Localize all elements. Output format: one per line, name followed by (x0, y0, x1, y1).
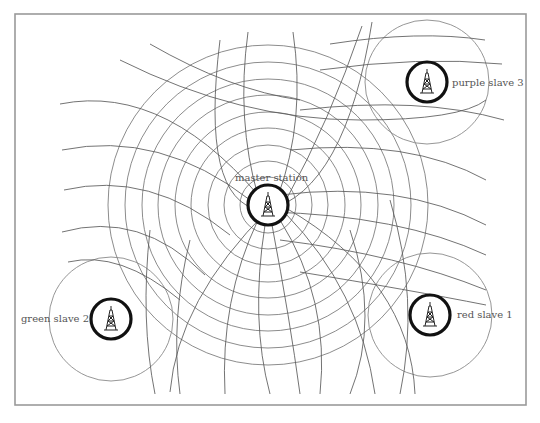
hyperbola-line (150, 44, 300, 100)
hyperbola-line (259, 225, 270, 394)
station-ring (91, 299, 131, 339)
station-ring (248, 185, 288, 225)
hyperbola-line (62, 146, 250, 200)
hyperbola-line (272, 225, 300, 394)
station-purple: purple slave 3 (407, 62, 524, 102)
station-label: purple slave 3 (452, 77, 524, 88)
station-ring (407, 62, 447, 102)
station-label: red slave 1 (457, 309, 513, 320)
loran-diagram: master stationpurple slave 3green slave … (0, 0, 540, 423)
hyperbola-line (286, 214, 375, 394)
station-ring (410, 295, 450, 335)
hyperbola-line (68, 260, 180, 300)
hyperbola-line (300, 272, 486, 305)
hyperbola-line (280, 220, 322, 394)
station-master: master station (235, 172, 309, 225)
hyperbola-line (64, 185, 230, 235)
station-green: green slave 2 (21, 299, 131, 339)
station-red: red slave 1 (410, 295, 513, 335)
station-label: master station (235, 172, 309, 183)
hyperbola-line (60, 101, 272, 212)
hyperbola-line (290, 147, 486, 180)
station-label: green slave 2 (21, 313, 89, 324)
hyperbola-line (330, 36, 485, 44)
